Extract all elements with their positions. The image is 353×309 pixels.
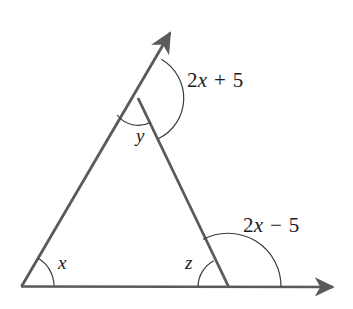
variable-bottom: x [254,213,264,237]
coefficient-top: 2 [187,68,198,92]
left-leg-ray [22,33,171,287]
baseline-ray [21,287,333,288]
operator-bottom: − [269,213,283,237]
coefficient-bottom: 2 [243,213,254,237]
constant-top: 5 [233,68,244,92]
exterior-angle-label-top: 2x + 5 [187,70,244,91]
right-leg [138,98,229,287]
angle-label-z: z [185,253,192,272]
angle-arc-z [198,261,214,287]
geometry-figure: x y z 2x + 5 2x − 5 [0,0,353,309]
variable-top: x [198,68,208,92]
constant-bottom: 5 [289,213,300,237]
operator-top: + [213,68,227,92]
geometry-canvas [0,0,353,309]
angle-arc-x [39,259,54,286]
angle-label-y: y [136,126,144,145]
angle-arc-2x-plus-5 [158,59,184,139]
exterior-angle-label-bottom: 2x − 5 [243,215,300,236]
angle-label-x: x [58,253,66,272]
